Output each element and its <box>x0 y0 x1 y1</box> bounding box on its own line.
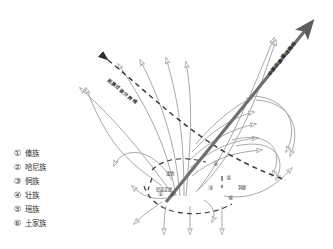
map-number-6: ⑥ <box>228 194 233 201</box>
map-number-3: ③ <box>208 184 213 191</box>
legend-marker-4: ④ <box>13 191 22 200</box>
migration-diagram: 中原汉族南迁路线 民族迁徙分界线 滇池 民族走廊 洞庭 ① ② ③ ④ ⑤ ⑥ … <box>0 0 333 249</box>
legend-label-3: 侗族 <box>25 177 39 186</box>
map-number-1: ① <box>158 190 163 197</box>
route-arrow-se-hook-2 <box>256 100 295 156</box>
route-arrow-se-loop <box>232 137 277 176</box>
map-number-4: ④ <box>213 160 218 167</box>
route-arrow-se-hook-1 <box>250 96 292 152</box>
legend-marker-6: ⑥ <box>13 219 22 228</box>
legend-label-1: 傣族 <box>25 149 39 158</box>
legend-label-6: 土家族 <box>25 219 47 228</box>
legend-item-1: ① 傣族 <box>13 146 75 160</box>
legend-marker-5: ⑤ <box>13 205 22 214</box>
legend-item-2: ② 哈尼族 <box>13 160 75 174</box>
legend-marker-2: ② <box>13 163 22 172</box>
route-arrow-w-1 <box>80 88 168 188</box>
map-number-2: ② <box>170 190 175 197</box>
legend-marker-1: ① <box>13 149 22 158</box>
route-arrow-nw-1 <box>118 64 176 196</box>
legend: ① 傣族 ② 哈尼族 ③ 侗族 ④ 壮族 ⑤ 瑶族 ⑥ 土家族 <box>13 146 75 230</box>
route-arrow-se-loop-2 <box>236 144 280 180</box>
route-arrow-w-2 <box>86 88 162 186</box>
thin-migration-arrows <box>80 38 295 234</box>
legend-label-4: 壮族 <box>25 191 39 200</box>
route-arrow-sw-2 <box>134 202 162 224</box>
route-arrow-e-1 <box>192 150 262 176</box>
legend-item-3: ③ 侗族 <box>13 174 75 188</box>
route-arrow-w-loop <box>114 152 172 180</box>
route-arrow-s-1 <box>164 206 166 234</box>
legend-item-4: ④ 壮族 <box>13 188 75 202</box>
route-arrow-nw-2 <box>140 60 180 196</box>
node-label-dianchi: 滇池 <box>166 170 174 176</box>
route-arrow-s-hook <box>204 200 214 222</box>
legend-label-5: 瑶族 <box>25 205 39 214</box>
map-number-5: ⑤ <box>226 174 231 181</box>
route-arrow-se-1 <box>224 168 292 197</box>
legend-marker-3: ③ <box>13 177 22 186</box>
dashed-tick-left <box>148 178 152 190</box>
node-label-dongting: 洞庭 <box>238 184 246 190</box>
legend-label-2: 哈尼族 <box>25 163 47 172</box>
legend-item-6: ⑥ 土家族 <box>13 216 75 230</box>
legend-item-5: ⑤ 瑶族 <box>13 202 75 216</box>
